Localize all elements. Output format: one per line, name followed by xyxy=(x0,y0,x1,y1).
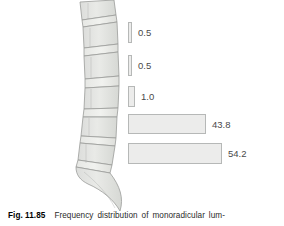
vertebra-l2 xyxy=(84,52,119,79)
bar-value-5: 54.2 xyxy=(228,149,247,159)
figure-caption: Fig. 11.85Frequency distribution of mono… xyxy=(8,210,280,221)
vertebra-l1 xyxy=(83,22,118,48)
bar-value-1: 0.5 xyxy=(138,28,151,38)
figure-caption-area: Fig. 11.85Frequency distribution of mono… xyxy=(0,210,284,226)
bar-5 xyxy=(128,143,222,164)
bar-2 xyxy=(128,55,132,76)
bar-4 xyxy=(128,114,206,134)
figure-caption-text: Frequency distribution of monoradicular … xyxy=(54,211,225,220)
figure-number: Fig. 11.85 xyxy=(8,211,45,220)
figure-container: 0.5 0.5 1.0 43.8 54.2 Fig. 11.85Frequenc… xyxy=(0,0,284,226)
sacrum-coccyx xyxy=(76,167,122,211)
bar-value-2: 0.5 xyxy=(138,61,151,71)
bar-value-4: 43.8 xyxy=(212,120,231,130)
bar-1 xyxy=(128,22,132,43)
bar-value-3: 1.0 xyxy=(141,92,154,102)
frequency-bar-chart: 0.5 0.5 1.0 43.8 54.2 xyxy=(128,0,284,200)
intervertebral-disc-4 xyxy=(83,108,118,117)
vertebra-l4 xyxy=(81,117,117,138)
vertebra-l3 xyxy=(84,86,119,109)
vertebral-column-group xyxy=(76,0,122,211)
bar-3 xyxy=(128,86,135,107)
